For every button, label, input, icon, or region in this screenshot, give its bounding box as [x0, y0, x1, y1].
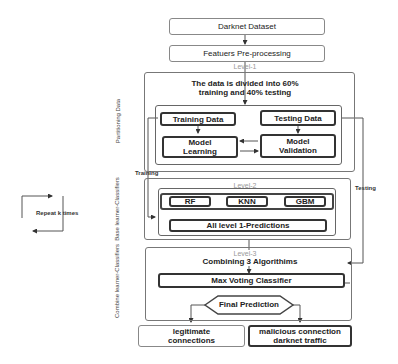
gbm-label: GBM [296, 197, 315, 206]
model-validation-label: Model Validation [273, 137, 323, 155]
level-1-label: Level-1 [215, 63, 275, 70]
model-learning-label: Model Learning [180, 138, 220, 156]
gbm-node: GBM [284, 196, 326, 207]
model-learning-node: Model Learning [162, 136, 238, 158]
model-validation-node: Model Validation [260, 134, 336, 158]
testing-data-label: Testing Data [274, 114, 321, 123]
knn-node: KNN [226, 196, 268, 207]
rf-node: RF [169, 196, 211, 207]
max-voting-label: Max Voting Classifier [211, 276, 291, 285]
training-data-node: Training Data [160, 112, 236, 126]
legitimate-label: legitimate connections [157, 327, 227, 345]
knn-label: KNN [238, 197, 255, 206]
all-predictions-label: All level 1-Predictions [206, 221, 289, 230]
malicious-node: malicious connection darknet traffic [248, 325, 352, 347]
combine-learner-side-label: Combine learner-Classifiers [114, 239, 120, 323]
partitioning-side-label: Partitioning Data [115, 86, 121, 156]
darknet-dataset-node: Darknet Dataset [169, 18, 325, 35]
final-prediction-label: Final Prediction [210, 300, 288, 309]
max-voting-node: Max Voting Classifier [158, 273, 345, 288]
training-edge-label: Training [135, 170, 158, 176]
darknet-dataset-label: Darknet Dataset [218, 22, 276, 31]
base-learner-side-label: Base learner-Classifiers [114, 169, 120, 249]
preprocessing-label: Featuers Pre-processing [203, 49, 291, 58]
testing-data-node: Testing Data [260, 110, 336, 126]
split-description: The data is divided into 60% training an… [180, 79, 310, 97]
testing-edge-label: Testing [355, 185, 376, 191]
preprocessing-node: Featuers Pre-processing [169, 45, 325, 62]
rf-label: RF [185, 197, 196, 206]
combining-label: Combining 3 Algorithims [180, 257, 320, 266]
level-3-label: Level-3 [215, 250, 275, 257]
legitimate-node: legitimate connections [138, 325, 245, 347]
malicious-label: malicious connection darknet traffic [250, 327, 350, 345]
repeat-label: Repeat k times [36, 210, 78, 216]
all-predictions-node: All level 1-Predictions [169, 219, 327, 232]
training-data-label: Training Data [173, 115, 224, 124]
